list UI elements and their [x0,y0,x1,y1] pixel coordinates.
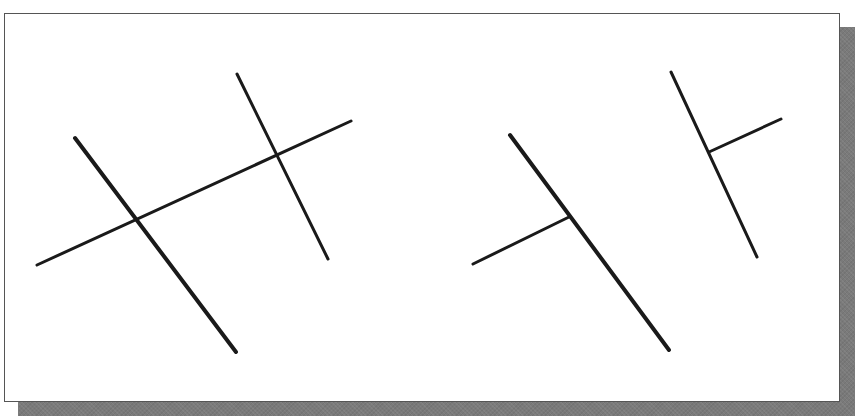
diagram-canvas [0,0,855,418]
left-thick-diagonal-line [75,138,236,352]
right-upper-branch-line [709,119,781,152]
right-short-diagonal-line [671,72,757,257]
right-figure-t-junctions [473,72,781,350]
left-long-shallow-line [37,121,351,265]
right-thick-diagonal-line [510,135,669,350]
right-lower-branch-line [473,217,569,264]
left-figure-intersecting-lines [37,74,351,352]
